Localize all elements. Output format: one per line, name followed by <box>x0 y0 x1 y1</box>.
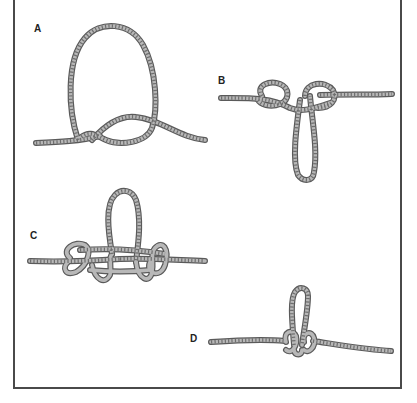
knot-diagram <box>0 0 417 403</box>
knot-step-a-illustration <box>36 26 205 143</box>
knot-step-b-illustration <box>221 83 392 180</box>
knot-step-d-illustration <box>211 288 391 354</box>
knot-step-c-illustration <box>30 191 205 280</box>
